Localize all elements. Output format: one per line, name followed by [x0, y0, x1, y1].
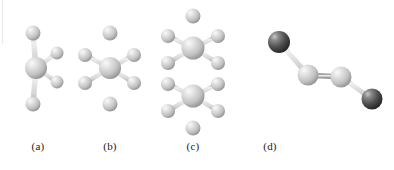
caption-b: (b) [72, 140, 148, 152]
atom-c-lower-center [182, 85, 205, 108]
atom-b-upper-right [127, 48, 141, 62]
model-c-bonds [168, 16, 218, 128]
atom-c-upper-unit-left-top [161, 29, 175, 43]
atom-c-lower-unit-left-bottom [161, 104, 175, 118]
atom-c-top [186, 9, 201, 24]
model-b [78, 26, 141, 112]
caption-c: (c) [155, 140, 231, 152]
caption-a: (a) [0, 140, 76, 152]
atom-c-lower-unit-left-top [161, 77, 175, 91]
atom-d-inner-right [331, 67, 352, 88]
atom-a-center [25, 57, 47, 79]
model-d-bonds [279, 42, 372, 99]
atom-b-lower-right [127, 76, 141, 90]
molecular-models-figure: (a) (b) (c) (d) [0, 0, 394, 170]
atom-c-lower-unit-right-bottom [211, 104, 225, 118]
atom-c-lower-unit-right-top [211, 77, 225, 91]
atom-b-lower-left [78, 76, 92, 90]
atom-c-upper-unit-right-top [211, 29, 225, 43]
model-d [268, 31, 383, 110]
caption-d: (d) [232, 140, 308, 152]
atom-c-upper-unit-right-bottom [211, 56, 225, 70]
atom-a-upper-right [51, 47, 64, 60]
atom-d-terminal-left [268, 31, 290, 53]
atom-b-center [99, 57, 121, 79]
atom-b-bottom [103, 97, 118, 112]
atom-a-top [26, 26, 41, 41]
atom-b-top [103, 26, 118, 41]
model-c [161, 9, 225, 136]
atom-c-upper-unit-left-bottom [161, 56, 175, 70]
atom-a-lower-right [51, 76, 64, 89]
atom-c-upper-center [182, 37, 205, 60]
atom-b-upper-left [78, 48, 92, 62]
atom-d-inner-left [298, 65, 319, 86]
model-a [25, 26, 64, 112]
atom-d-terminal-right [362, 89, 383, 110]
atom-a-bottom [26, 97, 41, 112]
atom-c-bottom [186, 121, 201, 136]
